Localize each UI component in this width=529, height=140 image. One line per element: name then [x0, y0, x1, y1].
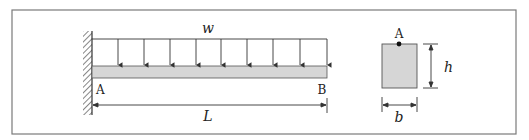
width-label: b: [395, 109, 404, 125]
beam: [92, 66, 327, 78]
distributed-load: [92, 39, 327, 65]
point-a-label: A: [95, 83, 105, 97]
height-label: h: [444, 59, 453, 75]
length-label: L: [202, 108, 212, 124]
cross-section: [382, 44, 417, 88]
point-a-marker: [397, 42, 402, 47]
load-label: w: [202, 20, 214, 36]
height-dimension: [423, 44, 438, 88]
fixed-support-wall: [83, 31, 92, 115]
section-point-a-label: A: [394, 27, 404, 41]
cantilever-diagram: w A B L A h b: [0, 0, 529, 140]
point-b-label: B: [318, 83, 327, 97]
